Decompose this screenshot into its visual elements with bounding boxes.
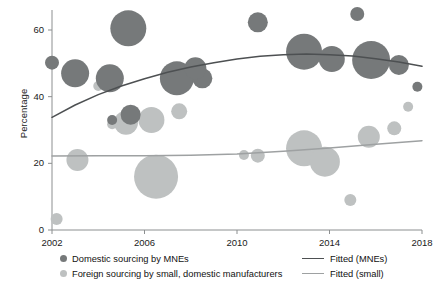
bubble-marker — [45, 56, 59, 70]
bubble-marker — [251, 149, 265, 163]
bubble-marker — [134, 155, 178, 199]
bubble-chart: Percentage 6040200 20022006201020142018 … — [0, 0, 439, 296]
bubble-marker — [310, 147, 340, 177]
bubble-marker — [389, 55, 409, 75]
legend-marker-small-dot — [60, 270, 67, 277]
bubble-marker — [350, 7, 364, 21]
bubble-marker — [239, 150, 249, 160]
bubble-marker — [319, 46, 345, 72]
bubble-marker — [96, 64, 124, 92]
bubble-marker — [121, 105, 141, 125]
legend-item-mnes[interactable]: Domestic sourcing by MNEs — [60, 252, 189, 265]
legend-marker-fitted-small-line — [302, 273, 324, 274]
legend-label-fitted-mnes: Fitted (MNEs) — [330, 254, 387, 264]
legend-item-small[interactable]: Foreign sourcing by small, domestic manu… — [60, 267, 282, 280]
bubble-marker — [344, 194, 356, 206]
bubble-marker — [51, 213, 63, 225]
legend-item-fitted-mnes[interactable]: Fitted (MNEs) — [302, 252, 387, 265]
bubble-marker — [107, 115, 117, 125]
legend-label-mnes: Domestic sourcing by MNEs — [72, 254, 189, 264]
legend-marker-fitted-mnes-line — [302, 258, 324, 259]
bubble-marker — [110, 10, 146, 46]
bubble-marker — [66, 149, 88, 171]
bubble-marker — [387, 121, 401, 135]
legend-label-small: Foreign sourcing by small, domestic manu… — [72, 269, 282, 279]
legend-marker-mnes-dot — [60, 255, 67, 262]
bubble-marker — [248, 12, 268, 32]
bubble-marker — [138, 107, 164, 133]
bubble-marker — [286, 34, 322, 70]
bubble-marker — [61, 59, 89, 87]
bubble-marker — [412, 82, 422, 92]
legend-label-fitted-small: Fitted (small) — [330, 269, 384, 279]
legend-item-fitted-small[interactable]: Fitted (small) — [302, 267, 384, 280]
bubble-marker — [403, 102, 413, 112]
bubble-marker — [171, 103, 187, 119]
